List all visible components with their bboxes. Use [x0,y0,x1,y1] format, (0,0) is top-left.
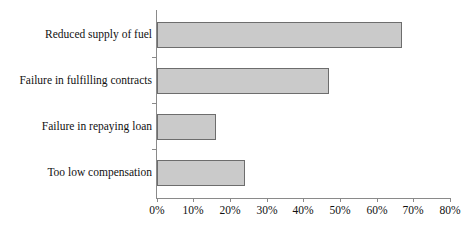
x-axis-tick [157,198,158,202]
x-axis-tick [340,198,341,202]
x-axis-tick [303,198,304,202]
x-axis-tick [450,198,451,202]
category-label-failure-in-fulfilling-contracts: Failure in fulfilling contracts [19,74,152,87]
x-axis-tick [230,198,231,202]
x-axis-tick-label-10: 10% [182,204,203,217]
x-axis-tick [413,198,414,202]
y-axis-tick [152,103,156,104]
x-axis-tick-label-50: 50% [329,204,350,217]
category-axis-labels: Reduced supply of fuel Failure in fulfil… [0,0,152,198]
bar-reduced-supply-of-fuel [157,22,402,48]
x-axis-tick [267,198,268,202]
bar-failure-in-fulfilling-contracts [157,68,329,94]
category-label-too-low-compensation: Too low compensation [47,166,152,179]
bar-too-low-compensation [157,160,245,186]
x-axis-tick-label-30: 30% [256,204,277,217]
x-axis-tick-label-70: 70% [402,204,423,217]
x-axis-tick-label-0: 0% [149,204,164,217]
x-axis-tick-label-40: 40% [292,204,313,217]
x-axis-tick-label-20: 20% [219,204,240,217]
y-axis-tick [152,57,156,58]
x-axis-tick-label-60: 60% [366,204,387,217]
category-label-failure-in-repaying-loan: Failure in repaying loan [42,120,152,133]
bar-chart: Reduced supply of fuel Failure in fulfil… [0,0,475,233]
x-axis-tick [193,198,194,202]
category-label-reduced-supply-of-fuel: Reduced supply of fuel [45,28,152,41]
plot-area [157,10,450,198]
x-axis-tick [377,198,378,202]
y-axis-tick [152,149,156,150]
x-axis-tick-label-80: 80% [439,204,460,217]
bar-failure-in-repaying-loan [157,114,216,140]
